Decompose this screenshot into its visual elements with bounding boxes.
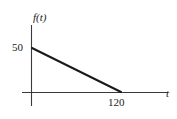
graph-figure: f(t) 50 120 t — [0, 0, 177, 119]
x-intercept-tick-label: 120 — [108, 97, 125, 108]
y-axis-label: f(t) — [33, 12, 46, 23]
y-intercept-tick-label: 50 — [12, 42, 23, 53]
plot-area — [0, 0, 177, 119]
function-line-segment — [32, 48, 121, 92]
x-axis-label: t — [166, 88, 169, 99]
